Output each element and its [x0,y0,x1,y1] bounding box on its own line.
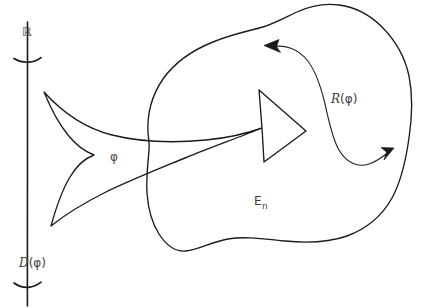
label-domain-of-phi: D(φ) [19,256,46,270]
label-range-of-phi: R(φ) [331,92,357,106]
figure-canvas: ℝ D(φ) φ R(φ) En [0,0,425,308]
s-curve-arrowhead-right [381,148,394,161]
blob-region-outline [147,4,412,251]
label-range-arg: φ [345,92,353,106]
label-range-paren-close: ) [353,92,358,106]
label-space-en: En [254,194,268,211]
label-space-base: E [254,194,262,208]
label-domain-paren-close: ) [41,256,46,270]
label-range-letter: R [331,92,340,106]
label-real-line: ℝ [22,25,32,39]
label-domain-letter: D [19,256,29,270]
diagram-svg [0,0,425,308]
label-space-subscript: n [262,201,268,211]
label-phi-arrow: φ [110,150,118,164]
